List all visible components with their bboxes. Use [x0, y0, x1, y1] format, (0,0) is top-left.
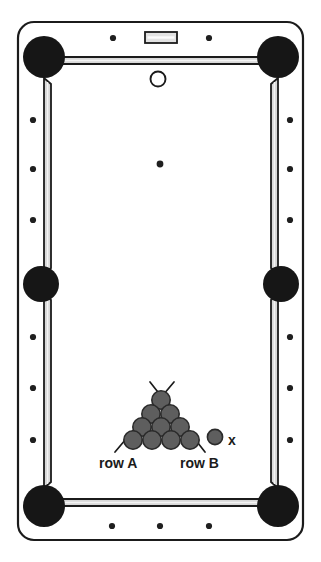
rack-ball [162, 431, 180, 449]
sight-dot-left-3 [30, 217, 36, 223]
table-center-spot [157, 161, 164, 168]
sight-dot-right-3 [287, 217, 293, 223]
pocket-top-left [23, 36, 65, 78]
cue-ball [151, 72, 166, 87]
pocket-top-right [257, 36, 299, 78]
sight-dot-bottom-2 [157, 523, 163, 529]
rail-name-plate [145, 32, 177, 43]
sight-dot-bottom-3 [206, 523, 212, 529]
sight-dot-left-6 [30, 437, 36, 443]
sight-dot-top-1 [110, 35, 116, 41]
pocket-side-left [23, 266, 59, 302]
pocket-bottom-right [257, 485, 299, 527]
sight-dot-right-2 [287, 166, 293, 172]
row-b-label: row B [180, 455, 219, 471]
sight-dot-right-5 [287, 385, 293, 391]
row-a-label: row A [99, 455, 137, 471]
figure-canvas: row A row B x [0, 0, 321, 562]
rack-ball [143, 431, 161, 449]
figure-caption [0, 551, 321, 562]
sight-dot-right-6 [287, 437, 293, 443]
pocket-side-right [263, 266, 299, 302]
rack-ball [181, 431, 199, 449]
pool-table-diagram [0, 0, 321, 562]
sight-dot-right-1 [287, 117, 293, 123]
ball-x [207, 429, 222, 444]
rack-ball [124, 431, 142, 449]
sight-dot-bottom-1 [109, 523, 115, 529]
sight-dot-right-4 [287, 334, 293, 340]
sight-dot-left-1 [30, 117, 36, 123]
ball-x-label: x [228, 432, 236, 448]
sight-dot-left-5 [30, 385, 36, 391]
table-outer-frame [18, 22, 303, 540]
pocket-bottom-left [23, 485, 65, 527]
sight-dot-left-4 [30, 334, 36, 340]
sight-dot-left-2 [30, 166, 36, 172]
sight-dot-top-2 [206, 35, 212, 41]
